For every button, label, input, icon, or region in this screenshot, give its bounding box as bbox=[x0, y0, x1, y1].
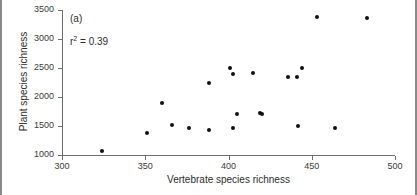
x-tick-label: 400 bbox=[209, 161, 249, 172]
x-tick-label: 300 bbox=[42, 161, 82, 172]
r-squared-annotation: r2 = 0.39 bbox=[70, 35, 108, 47]
x-tick-label: 500 bbox=[375, 161, 415, 172]
panel-label: (a) bbox=[70, 13, 82, 24]
data-point bbox=[207, 81, 211, 85]
data-point bbox=[300, 66, 304, 70]
x-tick-mark bbox=[145, 156, 146, 160]
data-point bbox=[187, 126, 191, 130]
r-squared-value: = 0.39 bbox=[77, 36, 108, 47]
x-tick-mark bbox=[312, 156, 313, 160]
data-point bbox=[333, 126, 337, 130]
x-tick-mark bbox=[62, 156, 63, 160]
y-axis-label: Plant species richness bbox=[18, 7, 29, 157]
plot-data-area bbox=[62, 10, 395, 155]
scatter-plot-figure: 300350400450500 100015002000250030003500… bbox=[0, 0, 417, 195]
x-tick-mark bbox=[229, 156, 230, 160]
x-axis-label: Vertebrate species richness bbox=[62, 174, 395, 185]
data-point bbox=[145, 131, 149, 135]
x-tick-label: 350 bbox=[125, 161, 165, 172]
data-point bbox=[207, 128, 211, 132]
data-point bbox=[315, 15, 319, 19]
x-tick-label: 450 bbox=[292, 161, 332, 172]
data-point bbox=[365, 16, 369, 20]
x-tick-mark bbox=[395, 156, 396, 160]
y-tick-mark bbox=[58, 155, 62, 156]
